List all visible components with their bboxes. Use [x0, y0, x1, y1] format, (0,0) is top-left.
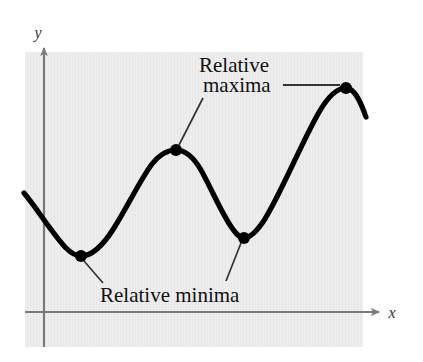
- relative-maximum-point-right: [340, 82, 352, 94]
- relative-maxima-label-line2: maxima: [203, 73, 271, 97]
- relative-minimum-point-left: [75, 250, 87, 262]
- y-axis-label: y: [32, 24, 42, 42]
- figure-container: y x Relative maxima Relative minima: [0, 0, 423, 362]
- x-axis-label: x: [387, 304, 395, 321]
- relative-extrema-figure: y x Relative maxima Relative minima: [0, 0, 423, 362]
- relative-minimum-point-right: [238, 232, 250, 244]
- relative-maximum-point-center: [170, 144, 182, 156]
- relative-minima-label: Relative minima: [100, 283, 240, 307]
